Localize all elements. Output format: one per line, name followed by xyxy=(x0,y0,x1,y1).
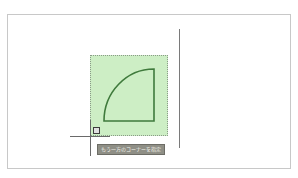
snap-marker-icon xyxy=(93,127,100,134)
crosshair-vertical xyxy=(90,120,91,156)
command-prompt-tooltip: もう一方のコーナーを指定 xyxy=(97,144,165,155)
